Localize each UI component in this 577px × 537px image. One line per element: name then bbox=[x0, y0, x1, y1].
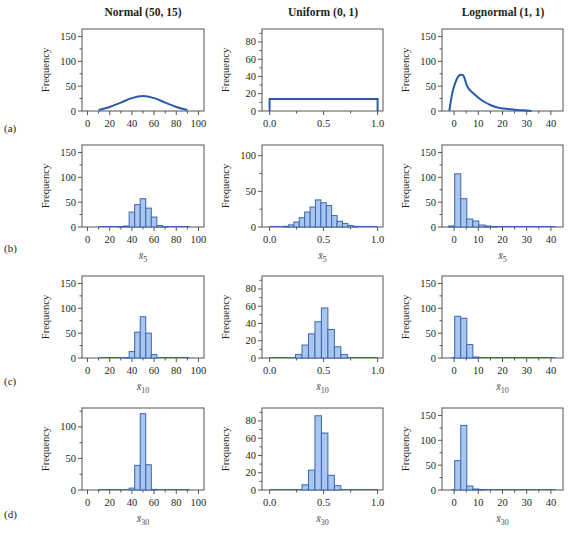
y-tick-label: 50 bbox=[66, 81, 77, 92]
y-axis-label: Frequency bbox=[400, 47, 411, 92]
y-tick-label: 100 bbox=[420, 435, 436, 446]
x-tick-label: 60 bbox=[149, 118, 160, 129]
x-tick-label: 100 bbox=[191, 497, 207, 508]
x-tick-label: 1.0 bbox=[371, 497, 384, 508]
x-tick-label: 0.0 bbox=[263, 365, 276, 376]
x-axis-label: x̄30 bbox=[136, 513, 150, 527]
x-axis-label: x̄5 bbox=[497, 250, 507, 264]
histogram-bar bbox=[485, 226, 491, 227]
panel-a-normal: 050100150020406080100Frequency bbox=[32, 25, 210, 151]
y-tick-label: 0 bbox=[71, 222, 76, 233]
x-tick-label: 10 bbox=[473, 365, 484, 376]
x-tick-label: 60 bbox=[149, 497, 160, 508]
density-curve bbox=[270, 99, 378, 111]
y-tick-label: 100 bbox=[420, 56, 436, 67]
x-tick-label: 40 bbox=[546, 234, 557, 245]
density-curve bbox=[449, 75, 531, 111]
x-tick-label: 80 bbox=[171, 365, 182, 376]
histogram-bar bbox=[135, 332, 141, 358]
x-tick-label: 40 bbox=[127, 118, 138, 129]
x-tick-label: 100 bbox=[191, 234, 207, 245]
histogram-bar bbox=[124, 226, 130, 227]
y-tick-label: 150 bbox=[420, 31, 436, 42]
histogram-bar bbox=[326, 206, 331, 227]
y-tick-label: 150 bbox=[420, 147, 436, 158]
x-tick-label: 20 bbox=[497, 234, 508, 245]
panel-d-uniform: 0204060800.00.51.0Frequencyx̄30 bbox=[212, 404, 389, 530]
y-tick-label: 50 bbox=[426, 328, 437, 339]
y-tick-label: 0 bbox=[71, 106, 76, 117]
y-tick-label: 20 bbox=[246, 467, 257, 478]
x-tick-label: 0.0 bbox=[263, 234, 276, 245]
y-tick-label: 150 bbox=[60, 278, 76, 289]
histogram-bar bbox=[299, 218, 304, 227]
histogram-bar bbox=[146, 465, 152, 490]
histogram-bar bbox=[321, 433, 327, 490]
histogram-bar bbox=[135, 465, 141, 490]
histogram-bar bbox=[467, 345, 473, 358]
histogram-bar bbox=[151, 355, 157, 358]
y-tick-label: 0 bbox=[431, 222, 436, 233]
plot-frame bbox=[82, 29, 204, 111]
y-tick-label: 80 bbox=[246, 415, 257, 426]
histogram-bar bbox=[135, 205, 141, 227]
y-tick-label: 60 bbox=[246, 54, 257, 65]
panel-b-lognormal: 050100150010203040Frequencyx̄5 bbox=[392, 141, 569, 267]
panel-d-lognormal: 050100150010203040Frequencyx̄30 bbox=[392, 404, 569, 530]
x-tick-label: 20 bbox=[104, 365, 115, 376]
histogram-bar bbox=[305, 212, 310, 227]
y-tick-label: 0 bbox=[71, 353, 76, 364]
histogram-bar bbox=[283, 226, 288, 227]
y-axis-label: Frequency bbox=[400, 294, 411, 339]
panel-b-normal: 050100150020406080100Frequencyx̄5 bbox=[32, 141, 210, 267]
histogram-bar bbox=[449, 226, 455, 227]
x-tick-label: 0 bbox=[451, 365, 456, 376]
histogram-bar bbox=[455, 461, 461, 490]
x-tick-label: 20 bbox=[104, 497, 115, 508]
histogram-bar bbox=[332, 216, 337, 227]
y-tick-label: 50 bbox=[426, 460, 437, 471]
histogram-bar bbox=[461, 318, 467, 358]
y-tick-label: 150 bbox=[420, 410, 436, 421]
x-tick-label: 20 bbox=[497, 365, 508, 376]
row-label-a: (a) bbox=[4, 122, 16, 134]
y-tick-label: 40 bbox=[246, 71, 257, 82]
x-tick-label: 0 bbox=[451, 497, 456, 508]
x-axis-label: x̄5 bbox=[317, 250, 327, 264]
density-curve bbox=[99, 96, 188, 110]
x-tick-label: 0.5 bbox=[317, 234, 330, 245]
x-tick-label: 80 bbox=[171, 234, 182, 245]
y-tick-label: 60 bbox=[246, 301, 257, 312]
y-tick-label: 50 bbox=[66, 197, 77, 208]
x-tick-label: 40 bbox=[127, 365, 138, 376]
x-tick-label: 30 bbox=[521, 118, 532, 129]
x-tick-label: 60 bbox=[149, 365, 160, 376]
y-tick-label: 20 bbox=[246, 88, 257, 99]
x-tick-label: 0 bbox=[85, 118, 90, 129]
x-tick-label: 20 bbox=[104, 118, 115, 129]
row-label-c: (c) bbox=[4, 375, 16, 387]
histogram-bar bbox=[473, 357, 479, 358]
row-label-d: (d) bbox=[4, 508, 17, 520]
column-title-lognormal: Lognormal (1, 1) bbox=[423, 6, 577, 18]
histogram-bar bbox=[140, 199, 146, 227]
histogram-bar bbox=[467, 486, 473, 490]
x-tick-label: 80 bbox=[171, 118, 182, 129]
x-axis-label: x̄10 bbox=[136, 381, 150, 395]
x-tick-label: 0 bbox=[451, 234, 456, 245]
histogram-bar bbox=[295, 355, 301, 358]
x-tick-label: 1.0 bbox=[371, 365, 384, 376]
histogram-bar bbox=[334, 486, 340, 490]
y-tick-label: 50 bbox=[66, 453, 77, 464]
y-tick-label: 150 bbox=[420, 278, 436, 289]
x-tick-label: 10 bbox=[473, 234, 484, 245]
histogram-bar bbox=[337, 221, 342, 227]
x-tick-label: 40 bbox=[546, 118, 557, 129]
histogram-bar bbox=[342, 223, 347, 227]
y-axis-label: Frequency bbox=[220, 294, 231, 339]
histogram-bar bbox=[341, 355, 347, 358]
y-tick-label: 0 bbox=[71, 485, 76, 496]
y-tick-label: 40 bbox=[246, 318, 257, 329]
y-tick-label: 100 bbox=[60, 56, 76, 67]
x-axis-label: x̄10 bbox=[495, 381, 509, 395]
